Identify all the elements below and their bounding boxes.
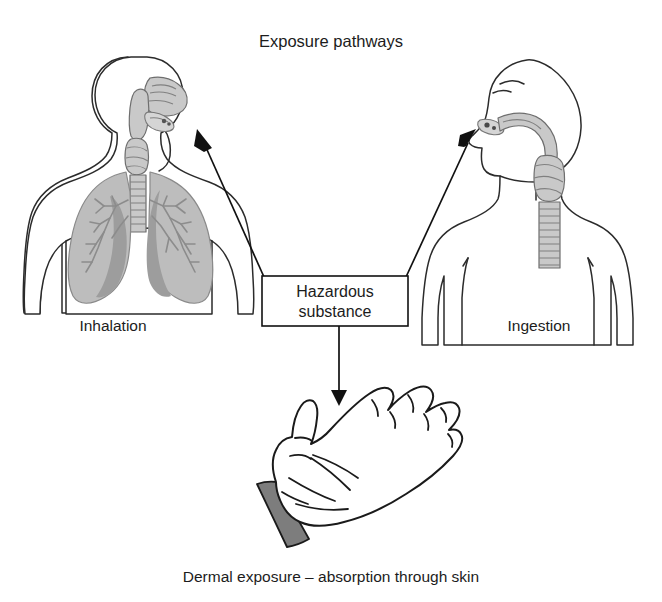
hazardous-substance-node: Hazardous substance — [262, 276, 408, 326]
exposure-pathways-diagram: Exposure pathways — [0, 0, 662, 602]
pathway-label-ingestion: Ingestion — [508, 317, 571, 334]
inhalation-figure: Inhalation — [23, 57, 254, 334]
dermal-hand-figure — [257, 387, 462, 547]
page-title: Exposure pathways — [259, 32, 403, 50]
ingestion-figure: Ingestion — [422, 60, 633, 345]
diagram-caption: Dermal exposure – absorption through ski… — [183, 568, 479, 585]
hazardous-substance-line1: Hazardous — [296, 283, 373, 300]
hazardous-substance-line2: substance — [299, 303, 372, 320]
arrow-to-dermal — [331, 326, 347, 406]
pathway-label-inhalation: Inhalation — [79, 317, 146, 334]
diagram-canvas: Exposure pathways — [0, 0, 662, 602]
